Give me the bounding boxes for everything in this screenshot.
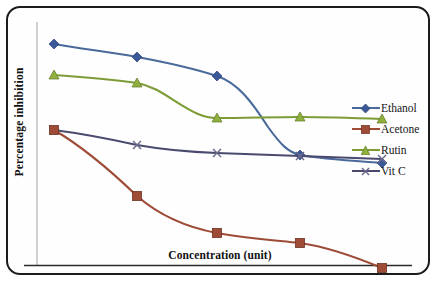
legend-item-acetone[interactable]: Acetone <box>352 120 419 138</box>
legend-swatch-rutin <box>352 143 380 157</box>
data-point-marker <box>133 192 142 201</box>
star-x-icon <box>361 167 370 176</box>
data-point-marker <box>50 126 59 135</box>
data-point-marker <box>213 229 222 238</box>
data-point-marker <box>378 264 387 273</box>
series-ethanol <box>49 39 387 168</box>
legend-swatch-vitc <box>352 164 380 178</box>
legend-label-ethanol: Ethanol <box>381 102 417 114</box>
legend-item-rutin[interactable]: Rutin <box>352 141 407 159</box>
data-point-marker <box>212 71 222 81</box>
square-icon <box>361 125 370 134</box>
series-vitc <box>50 126 386 163</box>
diamond-icon <box>361 104 370 113</box>
series-rutin-line <box>54 75 382 119</box>
series-acetone-line <box>54 130 382 268</box>
legend-item-vitc[interactable]: Vit C <box>352 162 406 180</box>
chart-figure: Percentage inhibition Concentration (uni… <box>0 0 441 287</box>
data-point-marker <box>296 239 305 248</box>
legend-swatch-ethanol <box>352 101 380 115</box>
legend-label-vitc: Vit C <box>381 165 406 177</box>
triangle-icon <box>361 146 370 155</box>
series-ethanol-line <box>54 44 382 163</box>
y-axis-label: Percentage inhibition <box>13 47 25 197</box>
legend-label-rutin: Rutin <box>381 144 407 156</box>
legend-label-acetone: Acetone <box>381 123 419 135</box>
legend-swatch-acetone <box>352 122 380 136</box>
x-axis-label: Concentration (unit) <box>120 249 320 261</box>
legend-item-ethanol[interactable]: Ethanol <box>352 99 417 117</box>
data-point-marker <box>132 52 142 62</box>
data-point-marker <box>49 39 59 49</box>
